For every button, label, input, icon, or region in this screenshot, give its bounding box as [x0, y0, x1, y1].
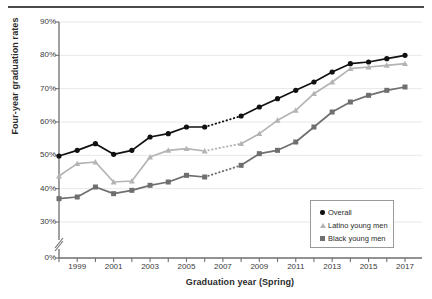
legend-item-black-young-men: Black young men [317, 232, 389, 245]
circle-marker-icon [317, 210, 328, 215]
legend-item-overall: Overall [317, 206, 389, 219]
legend-label: Latino young men [328, 221, 388, 230]
legend-label: Black young men [328, 234, 386, 243]
legend-label: Overall [328, 208, 352, 217]
square-marker-icon [317, 236, 328, 241]
chart-figure: Four-year graduation rates Graduation ye… [0, 0, 432, 299]
chart-plot-area [0, 0, 432, 299]
triangle-marker-icon [317, 223, 328, 228]
chart-legend: Overall Latino young men Black young men [310, 200, 394, 248]
legend-item-latino-young-men: Latino young men [317, 219, 389, 232]
